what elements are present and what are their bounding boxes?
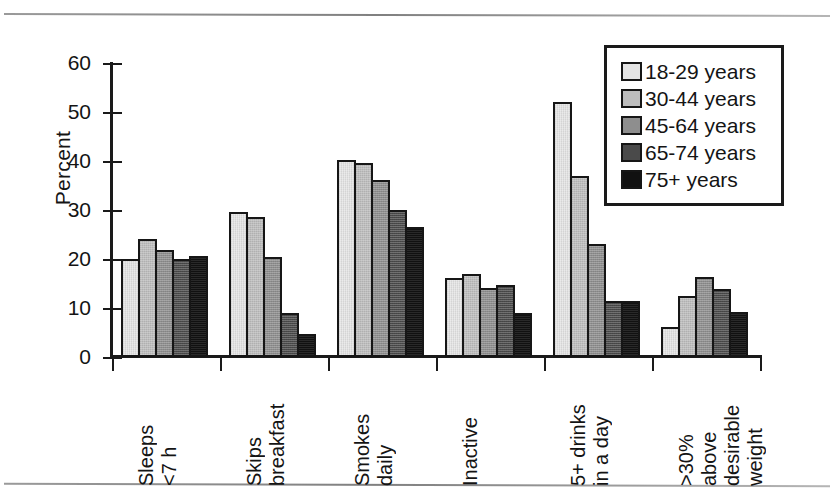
x-axis-label-line: breakfast	[266, 374, 288, 486]
x-tick	[436, 355, 438, 371]
bar	[263, 257, 282, 357]
legend-item: 30-44 years	[621, 85, 771, 112]
legend-item: 45-64 years	[621, 112, 771, 139]
legend-label: 18-29 years	[645, 61, 756, 82]
x-axis-label-line: 5+ drinks	[567, 374, 589, 486]
x-axis-label: 5+ drinksin a day	[567, 374, 612, 486]
y-tick-label: 60	[68, 52, 91, 73]
y-tick-label: 50	[68, 101, 91, 122]
x-axis-label-line: Skips	[243, 374, 265, 486]
legend-item: 18-29 years	[621, 58, 771, 85]
legend-label: 45-64 years	[645, 115, 756, 136]
bar	[246, 217, 265, 357]
x-axis-label-line: Sleeps	[135, 374, 157, 486]
bar	[172, 259, 191, 357]
bar-group	[445, 63, 530, 357]
y-tick-label: 0	[79, 346, 91, 367]
bar	[405, 227, 424, 357]
x-axis-label: Smokesdaily	[351, 374, 396, 486]
bar	[729, 312, 748, 357]
y-tick-label: 10	[68, 297, 91, 318]
bar	[513, 313, 532, 357]
x-axis-label: Skipsbreakfast	[243, 374, 288, 486]
legend-swatch	[621, 62, 642, 81]
legend-swatch	[621, 89, 642, 108]
x-axis-label-line: weight	[744, 374, 766, 486]
x-axis-label: Sleeps<7 h	[135, 374, 180, 486]
bar	[189, 256, 208, 357]
y-tick-60: 60	[103, 63, 122, 65]
bar	[155, 250, 174, 357]
y-tick-30: 30	[103, 210, 122, 212]
page-rule-top	[4, 13, 830, 17]
legend-label: 65-74 years	[645, 142, 756, 163]
bar	[138, 239, 157, 357]
figure-panel: Percent 0102030405060 18-29 years30-44 y…	[0, 0, 834, 499]
bar-group	[337, 63, 422, 357]
bar	[553, 102, 572, 357]
x-tick	[220, 355, 222, 371]
bar-group	[121, 63, 206, 357]
bar	[462, 274, 481, 357]
legend-swatch	[621, 116, 642, 135]
bar	[354, 163, 373, 357]
bar	[280, 313, 299, 357]
bar	[388, 210, 407, 357]
legend-swatch	[621, 143, 642, 162]
bar	[570, 176, 589, 357]
y-tick-40: 40	[103, 161, 122, 163]
y-tick-label: 30	[68, 199, 91, 220]
bar	[587, 244, 606, 357]
bar	[371, 180, 390, 357]
bar	[479, 288, 498, 357]
x-tick	[112, 355, 114, 371]
x-tick	[544, 355, 546, 371]
x-axis-label-line: above	[698, 374, 720, 486]
bar	[661, 327, 680, 357]
bar	[445, 278, 464, 357]
bar	[121, 259, 140, 357]
bar	[604, 301, 623, 357]
legend-swatch	[621, 170, 642, 189]
x-tick	[760, 355, 762, 371]
x-axis-label-line: Inactive	[459, 374, 481, 486]
bar	[337, 160, 356, 357]
y-tick-label: 20	[68, 248, 91, 269]
x-axis-label-line: desirable	[721, 374, 743, 486]
x-axis-label-line: <7 h	[158, 374, 180, 486]
bar	[496, 285, 515, 357]
x-axis-label-line: daily	[374, 374, 396, 486]
bar	[712, 289, 731, 357]
x-axis-label-line: in a day	[590, 374, 612, 486]
y-tick-50: 50	[103, 112, 122, 114]
y-tick-label: 40	[68, 150, 91, 171]
x-axis-label: Inactive	[459, 374, 481, 486]
bar	[678, 296, 697, 357]
chart-legend: 18-29 years30-44 years45-64 years65-74 y…	[604, 45, 784, 206]
bar-group	[229, 63, 314, 357]
legend-item: 65-74 years	[621, 139, 771, 166]
y-tick-20: 20	[103, 259, 122, 261]
bar	[695, 277, 714, 357]
x-axis-label-line: >30%	[675, 374, 697, 486]
legend-item: 75+ years	[621, 166, 771, 193]
x-axis-label: >30%abovedesirableweight	[675, 374, 766, 486]
x-tick	[328, 355, 330, 371]
bar	[621, 301, 640, 357]
legend-label: 75+ years	[645, 169, 738, 190]
y-tick-10: 10	[103, 308, 122, 310]
bar	[229, 212, 248, 357]
x-tick	[652, 355, 654, 371]
legend-label: 30-44 years	[645, 88, 756, 109]
x-axis-label-line: Smokes	[351, 374, 373, 486]
bar	[297, 334, 316, 357]
